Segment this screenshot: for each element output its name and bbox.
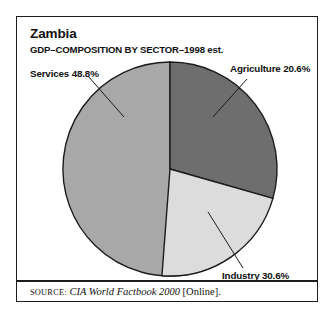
source-divider	[17, 280, 317, 282]
pie-label-agriculture: Agriculture 20.6%	[230, 63, 310, 74]
source-publication: CIA World Factbook 2000	[69, 286, 180, 297]
source-line: SOURCE: CIA World Factbook 2000 [Online]…	[30, 286, 221, 297]
pie-label-services: Services 48.8%	[30, 68, 99, 79]
source-suffix: [Online].	[183, 286, 221, 297]
source-label: SOURCE:	[30, 288, 67, 297]
figure-panel: Zambia GDP–COMPOSITION BY SECTOR–1998 es…	[0, 0, 336, 318]
